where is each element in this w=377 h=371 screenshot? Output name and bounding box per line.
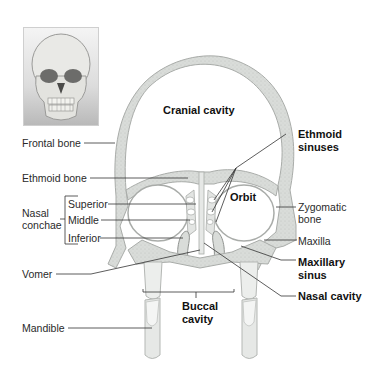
zygomatic-bone-label-line1: Zygomatic (298, 201, 346, 213)
maxilla-label: Maxilla (298, 235, 331, 247)
skull-coronal-section-figure: Cranial cavity Orbit Buccal cavity Front… (0, 0, 377, 371)
frontal-bone-label: Frontal bone (22, 137, 81, 149)
left-orbit (128, 185, 188, 241)
vomer-label: Vomer (22, 268, 52, 280)
maxillary-sinus-label-line2: sinus (298, 269, 327, 281)
orbit-label: Orbit (230, 191, 256, 203)
maxillary-sinus-label-line1: Maxillary (298, 256, 345, 268)
mandible-label: Mandible (22, 322, 65, 334)
ethmoid-sinuses-label-line1: Ethmoid (298, 128, 342, 140)
superior-concha-label: Superior (68, 198, 108, 210)
cranial-cavity-label: Cranial cavity (163, 104, 235, 116)
nasal-cavity-label: Nasal cavity (298, 290, 362, 302)
inferior-concha-label: Inferior (68, 232, 101, 244)
middle-concha-label: Middle (68, 214, 99, 226)
nasal-conchae-label-line1: Nasal (22, 207, 49, 219)
ethmoid-sinuses-label-line2: sinuses (298, 141, 339, 153)
nasal-conchae-label-line2: conchae (22, 219, 62, 231)
buccal-cavity-label-line2: cavity (182, 313, 213, 325)
zygomatic-bone-label-line2: bone (298, 213, 321, 225)
ethmoid-bone-label: Ethmoid bone (22, 172, 87, 184)
buccal-cavity-label-line1: Buccal (182, 300, 218, 312)
